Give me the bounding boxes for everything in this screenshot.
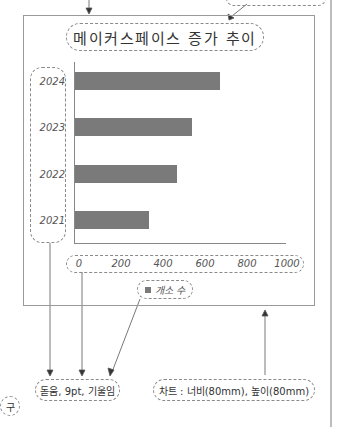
y-axis-labels: 2024 2023 2022 2021	[30, 67, 66, 243]
partial-note: 구	[0, 396, 20, 416]
y-tick-2024: 2024	[31, 76, 65, 87]
x-axis-labels: 0 200 400 600 800 1000	[66, 255, 304, 273]
y-tick-2021: 2021	[31, 215, 65, 226]
chart-legend: 개소 수	[137, 280, 193, 299]
bar-2022	[75, 165, 177, 183]
x-tick-800: 800	[237, 258, 256, 269]
top-note-bubble	[226, 0, 326, 6]
x-tick-0: 0	[76, 258, 82, 269]
x-tick-600: 600	[195, 258, 214, 269]
bar-2021	[75, 211, 149, 229]
x-tick-400: 400	[153, 258, 172, 269]
legend-label: 개소 수	[155, 282, 185, 297]
chart-title: 메이커스페이스 증가 추이	[66, 23, 264, 51]
bar-2023	[75, 118, 192, 136]
plot-area	[74, 62, 286, 244]
bar-2024	[75, 72, 220, 90]
y-tick-2022: 2022	[31, 169, 65, 180]
legend-swatch-icon	[145, 287, 151, 293]
x-tick-1000: 1000	[274, 258, 299, 269]
x-tick-200: 200	[111, 258, 130, 269]
font-note: 돋움, 9pt, 기울임	[35, 379, 120, 401]
y-tick-2023: 2023	[31, 122, 65, 133]
size-note: 차트 : 너비(80mm), 높이(80mm)	[153, 379, 315, 401]
